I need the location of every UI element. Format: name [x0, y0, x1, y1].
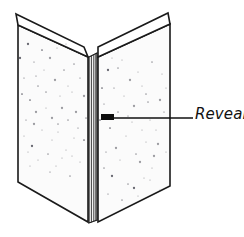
- speck: [147, 101, 149, 103]
- speck: [75, 111, 77, 113]
- speck: [54, 79, 56, 81]
- speck: [79, 77, 80, 78]
- speck: [47, 153, 49, 155]
- speck: [59, 95, 60, 96]
- speck: [141, 85, 142, 86]
- speck: [117, 111, 119, 113]
- speck: [153, 155, 155, 157]
- speck: [137, 195, 138, 196]
- speck: [137, 71, 138, 72]
- speck: [143, 177, 144, 178]
- speck: [23, 135, 24, 136]
- speck: [155, 129, 156, 130]
- speck: [55, 165, 56, 166]
- speck: [35, 75, 36, 76]
- speck: [31, 145, 33, 147]
- speck: [49, 171, 50, 172]
- speck: [49, 57, 51, 59]
- speck: [111, 175, 113, 177]
- speck: [35, 111, 37, 113]
- speck: [71, 155, 72, 156]
- speck: [85, 117, 87, 119]
- speck: [73, 63, 75, 65]
- speck: [83, 139, 85, 141]
- left-panel-face: [18, 25, 88, 222]
- speck: [165, 151, 166, 152]
- speck: [107, 69, 109, 71]
- speck: [63, 69, 65, 71]
- speck: [33, 123, 35, 125]
- speck: [165, 87, 166, 88]
- speck: [127, 183, 129, 185]
- speck: [65, 43, 66, 44]
- speck: [45, 91, 47, 93]
- speck: [69, 39, 71, 41]
- speck: [133, 187, 135, 189]
- speck: [77, 51, 78, 52]
- speck: [57, 131, 58, 132]
- speck: [131, 121, 132, 122]
- speck: [159, 99, 161, 101]
- speck: [29, 99, 31, 101]
- speck: [99, 119, 101, 121]
- speck: [67, 119, 69, 121]
- speck: [23, 77, 24, 78]
- speck: [151, 167, 152, 168]
- speck: [25, 119, 26, 120]
- speck: [163, 111, 164, 112]
- speck: [119, 159, 120, 160]
- speck: [117, 67, 119, 69]
- speck: [151, 61, 153, 63]
- speck: [161, 73, 162, 74]
- speck: [101, 87, 103, 89]
- speck: [157, 143, 159, 145]
- speck: [77, 127, 78, 128]
- speck: [65, 149, 66, 150]
- speck: [107, 193, 108, 194]
- speck: [61, 157, 62, 158]
- speck: [41, 49, 43, 51]
- speck: [61, 107, 63, 109]
- speck: [21, 93, 23, 95]
- speck: [79, 161, 80, 162]
- speck: [141, 129, 142, 130]
- speck: [69, 175, 71, 177]
- speck: [51, 139, 52, 140]
- speck: [145, 93, 147, 95]
- speck: [129, 79, 131, 81]
- speck: [19, 57, 21, 59]
- speck: [159, 189, 160, 190]
- speck: [105, 151, 106, 152]
- speck: [37, 159, 38, 160]
- speck: [149, 179, 150, 180]
- speck: [57, 123, 59, 125]
- speck: [73, 137, 74, 138]
- speck: [45, 107, 46, 108]
- speck: [139, 161, 141, 163]
- speck: [103, 167, 105, 169]
- speck: [29, 165, 30, 166]
- speck: [109, 127, 111, 129]
- reveal-detail-figure: Reveal: [0, 0, 244, 237]
- speck: [67, 85, 68, 86]
- speck: [103, 103, 104, 104]
- speck: [121, 199, 123, 201]
- speck: [111, 57, 112, 58]
- speck: [135, 153, 137, 155]
- speck: [27, 151, 28, 152]
- speck: [121, 59, 122, 60]
- speck: [27, 43, 29, 45]
- speck: [115, 147, 117, 149]
- reveal-marker-tick: [101, 114, 114, 120]
- speck: [133, 105, 135, 107]
- speck: [149, 119, 150, 120]
- speck: [113, 87, 114, 88]
- speck: [33, 61, 34, 62]
- speck: [125, 135, 126, 136]
- speck: [41, 129, 42, 130]
- speck: [37, 85, 39, 87]
- speck: [40, 35, 41, 36]
- speck: [127, 115, 128, 116]
- right-panel-face: [98, 24, 170, 222]
- speck: [56, 47, 57, 48]
